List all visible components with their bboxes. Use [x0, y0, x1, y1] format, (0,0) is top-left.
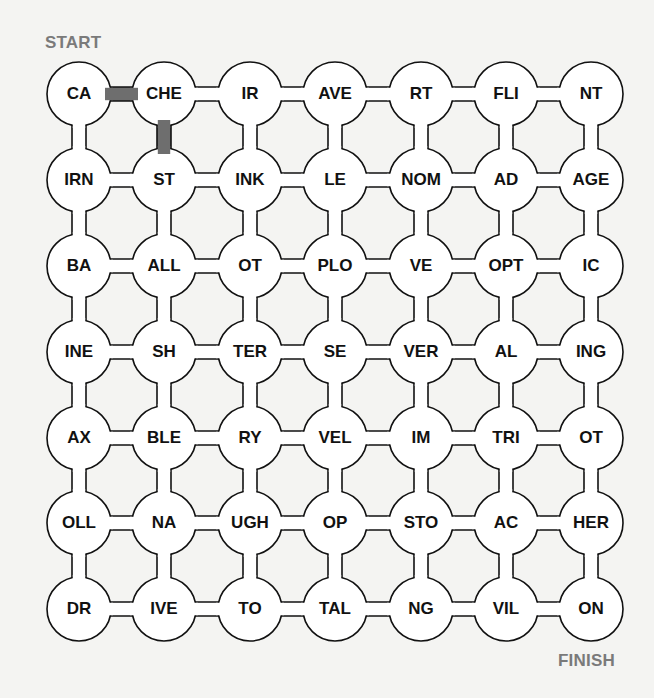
cell-op[interactable]: OP	[303, 491, 367, 555]
cell-nt[interactable]: NT	[559, 62, 623, 126]
cell-che[interactable]: CHE	[132, 62, 196, 126]
cell-ac[interactable]: AC	[474, 491, 538, 555]
cell-dr[interactable]: DR	[47, 577, 111, 641]
finish-label: FINISH	[558, 651, 615, 671]
cell-her[interactable]: HER	[559, 491, 623, 555]
cell-ba[interactable]: BA	[47, 234, 111, 298]
cell-rt[interactable]: RT	[389, 62, 453, 126]
cell-ver[interactable]: VER	[389, 320, 453, 384]
cell-ble[interactable]: BLE	[132, 406, 196, 470]
cell-nom[interactable]: NOM	[389, 148, 453, 212]
cell-ot[interactable]: OT	[559, 406, 623, 470]
cell-na[interactable]: NA	[132, 491, 196, 555]
cell-ine[interactable]: INE	[47, 320, 111, 384]
cell-tri[interactable]: TRI	[474, 406, 538, 470]
cell-ad[interactable]: AD	[474, 148, 538, 212]
cell-ax[interactable]: AX	[47, 406, 111, 470]
cell-opt[interactable]: OPT	[474, 234, 538, 298]
cell-ink[interactable]: INK	[218, 148, 282, 212]
cell-al[interactable]: AL	[474, 320, 538, 384]
start-label: START	[45, 33, 101, 53]
cell-im[interactable]: IM	[389, 406, 453, 470]
cell-irn[interactable]: IRN	[47, 148, 111, 212]
cell-sto[interactable]: STO	[389, 491, 453, 555]
cell-oll[interactable]: OLL	[47, 491, 111, 555]
cell-tal[interactable]: TAL	[303, 577, 367, 641]
cell-vil[interactable]: VIL	[474, 577, 538, 641]
cell-ave[interactable]: AVE	[303, 62, 367, 126]
cell-to[interactable]: TO	[218, 577, 282, 641]
cell-se[interactable]: SE	[303, 320, 367, 384]
cell-ry[interactable]: RY	[218, 406, 282, 470]
cell-ic[interactable]: IC	[559, 234, 623, 298]
cell-ve[interactable]: VE	[389, 234, 453, 298]
cell-on[interactable]: ON	[559, 577, 623, 641]
cell-ive[interactable]: IVE	[132, 577, 196, 641]
cell-st[interactable]: ST	[132, 148, 196, 212]
cell-ugh[interactable]: UGH	[218, 491, 282, 555]
cell-ng[interactable]: NG	[389, 577, 453, 641]
cell-ter[interactable]: TER	[218, 320, 282, 384]
cell-plo[interactable]: PLO	[303, 234, 367, 298]
cell-fli[interactable]: FLI	[474, 62, 538, 126]
cell-age[interactable]: AGE	[559, 148, 623, 212]
cell-ot[interactable]: OT	[218, 234, 282, 298]
cell-ca[interactable]: CA	[47, 62, 111, 126]
cell-ing[interactable]: ING	[559, 320, 623, 384]
cell-le[interactable]: LE	[303, 148, 367, 212]
cell-all[interactable]: ALL	[132, 234, 196, 298]
cell-vel[interactable]: VEL	[303, 406, 367, 470]
cell-ir[interactable]: IR	[218, 62, 282, 126]
cell-sh[interactable]: SH	[132, 320, 196, 384]
